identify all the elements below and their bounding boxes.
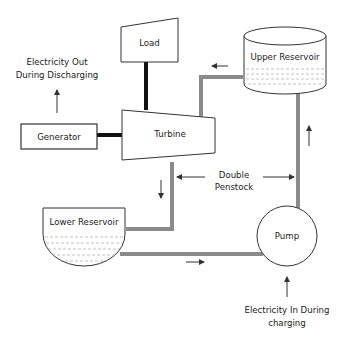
penstock-label-line1: Double [204, 169, 264, 181]
upper-reservoir-label: Upper Reservoir [244, 51, 326, 63]
penstock-label-line2: Penstock [204, 181, 264, 193]
electricity-out-label-line2: During Discharging [7, 69, 107, 81]
load-label: Load [121, 37, 178, 49]
turbine-label: Turbine [135, 128, 205, 140]
electricity-in-label-line1: Electricity In During [232, 304, 339, 316]
lower-reservoir-label: Lower Reservoir [43, 216, 125, 228]
pump-label: Pump [257, 230, 317, 242]
electricity-out-label-line1: Electricity Out [7, 56, 107, 68]
generator-label: Generator [21, 131, 97, 143]
electricity-in-label-line2: charging [232, 317, 339, 329]
